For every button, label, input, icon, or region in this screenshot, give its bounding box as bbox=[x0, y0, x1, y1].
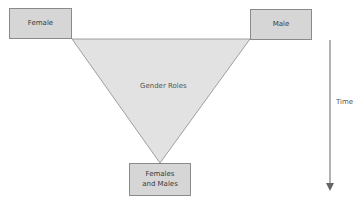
male-node: Male bbox=[250, 9, 312, 40]
gender-roles-triangle bbox=[72, 39, 250, 163]
females-and-males-label: Females and Males bbox=[138, 170, 182, 189]
gender-roles-label: Gender Roles bbox=[140, 82, 187, 90]
time-arrow-head-icon bbox=[326, 183, 334, 191]
male-label: Male bbox=[273, 20, 290, 29]
time-axis-label: Time bbox=[336, 98, 353, 106]
female-label: Female bbox=[28, 19, 53, 28]
female-node: Female bbox=[9, 8, 72, 39]
females-and-males-node: Females and Males bbox=[129, 163, 191, 196]
